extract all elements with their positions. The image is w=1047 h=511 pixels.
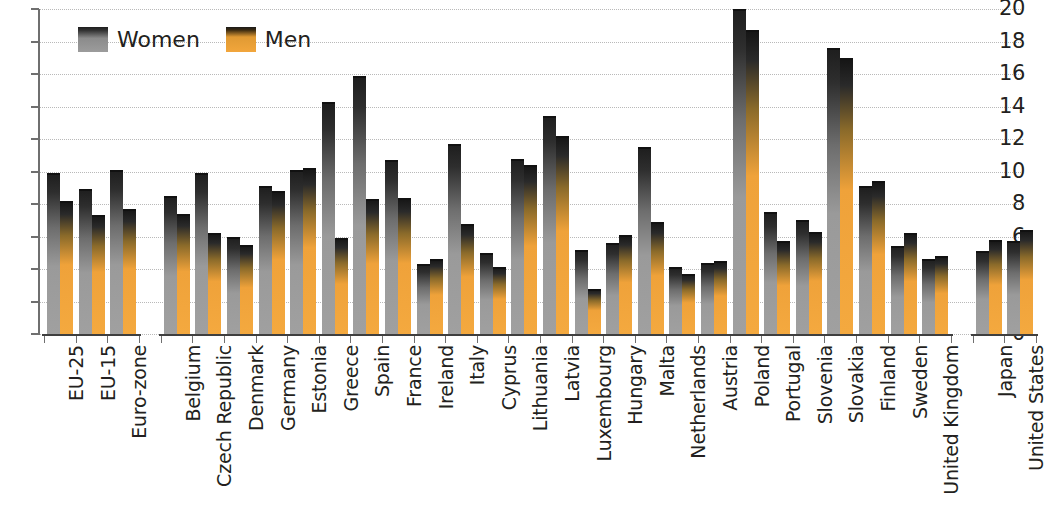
x-tick-mark (635, 336, 636, 343)
bar-cap (606, 243, 619, 245)
bar-women (79, 189, 92, 334)
y-tick-mark (31, 268, 39, 270)
x-axis-label: Portugal (784, 345, 803, 422)
bar-cap (1007, 241, 1020, 243)
y-tick-mark (31, 236, 39, 238)
x-axis-label: Slovenia (816, 345, 835, 424)
bar-cap (796, 220, 809, 222)
bar-men (746, 30, 759, 334)
bar-women (164, 196, 177, 334)
y-tick-label: 20 (991, 0, 1025, 19)
bar-men (92, 215, 105, 334)
bar-women (290, 170, 303, 334)
x-tick-mark (224, 336, 225, 343)
bar-men (619, 235, 632, 334)
bar-women (669, 267, 682, 334)
bar-women (764, 212, 777, 334)
bar-men (398, 198, 411, 335)
x-axis-segment (159, 334, 953, 336)
x-tick-mark (508, 336, 509, 343)
bar-cap (461, 224, 474, 226)
bar-men (840, 58, 853, 334)
bar-men (366, 199, 379, 334)
bar-cap (543, 116, 556, 118)
bar-women (638, 147, 651, 334)
bar-cap (777, 241, 790, 243)
x-tick-mark (761, 336, 762, 343)
bar-cap (195, 173, 208, 175)
gridline (40, 74, 1023, 75)
bar-women (922, 259, 935, 334)
bar-cap (682, 274, 695, 276)
x-axis-label: France (405, 345, 424, 407)
legend-swatch-men-icon (226, 27, 256, 52)
legend-entry-women: Women (78, 27, 200, 52)
bar-men (335, 238, 348, 334)
bar-men (777, 241, 790, 334)
bar-women (227, 237, 240, 335)
bar-cap (335, 238, 348, 240)
bar-women (543, 116, 556, 334)
bar-men (682, 274, 695, 334)
x-axis-label: Sweden (911, 345, 930, 419)
x-axis-label: Belgium (184, 345, 203, 422)
x-axis-label: Lithuania (531, 345, 550, 431)
bar-women (322, 102, 335, 334)
bar-men (177, 214, 190, 334)
x-tick-mark (824, 336, 825, 343)
y-tick-mark (31, 333, 39, 335)
x-axis-label: Finland (879, 345, 898, 412)
bar-cap (303, 168, 316, 170)
x-axis-label: Latvia (563, 345, 582, 402)
x-tick-mark (951, 336, 952, 343)
x-axis-label: Spain (373, 345, 392, 397)
x-axis-label: United States (1027, 345, 1046, 471)
bar-women (511, 159, 524, 335)
bar-cap (524, 165, 537, 167)
x-tick-mark (730, 336, 731, 343)
bar-women (110, 170, 123, 334)
bar-cap (164, 196, 177, 198)
bar-men (904, 233, 917, 334)
x-tick-mark (139, 336, 140, 343)
y-tick-mark (31, 73, 39, 75)
y-tick-mark (31, 138, 39, 140)
y-tick-label: 8 (991, 193, 1025, 214)
bar-cap (430, 259, 443, 261)
x-tick-mark (287, 336, 288, 343)
bar-cap (588, 289, 601, 291)
x-tick-mark (350, 336, 351, 343)
bar-women (827, 48, 840, 334)
bar-men (272, 191, 285, 334)
x-axis-label: Cyprus (500, 345, 519, 410)
bar-cap (746, 30, 759, 32)
bar-cap (79, 189, 92, 191)
x-axis-label: Austria (721, 345, 740, 411)
bar-cap (669, 267, 682, 269)
legend-label-women: Women (117, 29, 200, 51)
x-axis-label: Germany (279, 345, 298, 431)
x-axis-label: Poland (753, 345, 772, 407)
x-tick-mark (793, 336, 794, 343)
y-tick-label: 14 (991, 96, 1025, 117)
bar-cap (493, 267, 506, 269)
legend-swatch-women-icon (78, 27, 108, 52)
bar-women (259, 186, 272, 334)
bar-cap (385, 160, 398, 162)
x-axis-label: Italy (468, 345, 487, 385)
x-tick-mark (603, 336, 604, 343)
x-axis-label: EU-25 (67, 345, 86, 401)
x-tick-mark (919, 336, 920, 343)
bar-women (47, 173, 60, 334)
bar-men (461, 224, 474, 335)
bar-cap (872, 181, 885, 183)
bar-cap (398, 198, 411, 200)
bar-cap (366, 199, 379, 201)
x-tick-mark (698, 336, 699, 343)
bar-men (588, 289, 601, 335)
bar-cap (922, 259, 935, 261)
x-tick-mark (445, 336, 446, 343)
y-tick-label: 12 (991, 128, 1025, 149)
bar-men (989, 240, 1002, 334)
bar-men (809, 232, 822, 334)
